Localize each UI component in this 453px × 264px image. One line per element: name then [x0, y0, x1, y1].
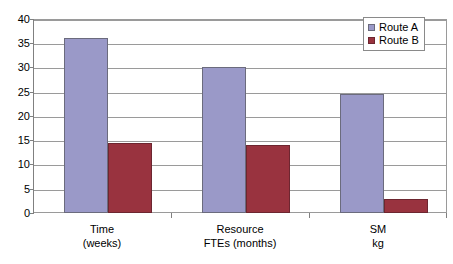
- bar-route-a-time: [64, 38, 108, 213]
- category-label-resource: Resource FTEs (months): [171, 222, 309, 250]
- y-tick-label-35: 35: [0, 38, 30, 49]
- category-label-line: (weeks): [33, 236, 171, 250]
- category-label-line: SM: [309, 222, 447, 236]
- bar-route-a-resource: [202, 67, 246, 213]
- y-tick-label-30: 30: [0, 62, 30, 73]
- legend-label: Route B: [379, 35, 419, 46]
- bar-route-a-sm: [340, 94, 384, 213]
- legend-swatch-icon: [368, 37, 375, 44]
- y-tick-label-10: 10: [0, 159, 30, 170]
- category-labels: Time (weeks) Resource FTEs (months) SM k…: [33, 222, 447, 262]
- y-tick-mark: [30, 19, 34, 20]
- category-label-line: kg: [309, 236, 447, 250]
- legend-swatch-icon: [368, 24, 375, 31]
- category-tick: [446, 213, 447, 218]
- category-label-line: FTEs (months): [171, 236, 309, 250]
- y-tick-mark: [30, 67, 34, 68]
- y-tick-mark: [30, 164, 34, 165]
- y-tick-mark: [30, 43, 34, 44]
- y-tick-mark: [30, 213, 34, 214]
- category-label-sm: SM kg: [309, 222, 447, 250]
- y-tick-label-40: 40: [0, 14, 30, 25]
- legend-item-route-b: Route B: [368, 34, 419, 47]
- y-tick-mark: [30, 116, 34, 117]
- bar-route-b-time: [108, 143, 152, 213]
- category-tick: [309, 213, 310, 218]
- y-tick-label-25: 25: [0, 87, 30, 98]
- y-tick-label-5: 5: [0, 184, 30, 195]
- y-tick-label-0: 0: [0, 208, 30, 219]
- legend-item-route-a: Route A: [368, 21, 419, 34]
- legend-label: Route A: [379, 22, 418, 33]
- y-tick-label-20: 20: [0, 111, 30, 122]
- legend: Route A Route B: [363, 17, 425, 51]
- bar-chart: 40 35 30 25 20 15 10 5 0 Time (weeks) Re…: [0, 0, 453, 264]
- y-axis-labels: 40 35 30 25 20 15 10 5 0: [0, 0, 30, 264]
- y-tick-mark: [30, 140, 34, 141]
- category-tick: [171, 213, 172, 218]
- category-label-time: Time (weeks): [33, 222, 171, 250]
- y-tick-mark: [30, 189, 34, 190]
- bar-route-b-resource: [246, 145, 290, 213]
- y-tick-label-15: 15: [0, 135, 30, 146]
- category-label-line: Time: [33, 222, 171, 236]
- bar-route-b-sm: [384, 199, 428, 213]
- y-tick-mark: [30, 92, 34, 93]
- category-label-line: Resource: [171, 222, 309, 236]
